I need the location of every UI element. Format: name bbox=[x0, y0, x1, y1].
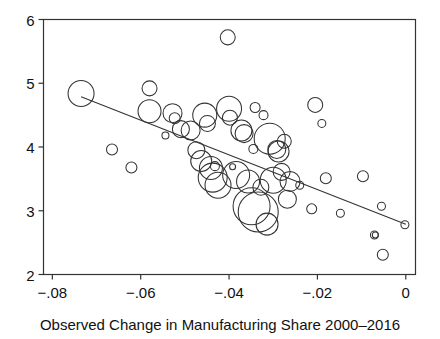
bubble-marker bbox=[308, 97, 323, 112]
bubble-marker bbox=[220, 30, 235, 45]
x-axis-title: Observed Change in Manufacturing Share 2… bbox=[0, 316, 440, 333]
bubble-marker bbox=[268, 141, 286, 159]
bubble-marker bbox=[222, 110, 237, 125]
bubble-scatter-figure: 23456 −.08−.06−.04−.020 Observed Change … bbox=[0, 0, 440, 339]
bubble-marker bbox=[250, 102, 260, 112]
axes bbox=[39, 20, 416, 280]
bubble-marker bbox=[235, 125, 253, 143]
bubble-marker bbox=[193, 103, 217, 127]
bubble-marker bbox=[377, 202, 385, 210]
bubble-marker bbox=[106, 144, 117, 155]
bubble-marker bbox=[253, 179, 269, 195]
y-tick-label: 6 bbox=[0, 11, 35, 28]
bubble-marker bbox=[259, 111, 268, 120]
bubble-marker bbox=[254, 123, 285, 154]
bubble-marker bbox=[336, 209, 344, 217]
bubble-marker bbox=[68, 80, 94, 106]
y-tick-label: 3 bbox=[0, 202, 35, 219]
bubble-marker bbox=[318, 119, 326, 127]
x-tick-label: −.08 bbox=[38, 284, 68, 301]
bubble-marker bbox=[249, 144, 258, 153]
y-tick-label: 5 bbox=[0, 75, 35, 92]
bubble-marker bbox=[357, 171, 368, 182]
bubble-marker bbox=[126, 162, 137, 173]
bubble-marker bbox=[142, 81, 157, 96]
bubble-marker bbox=[372, 232, 378, 238]
fit-line bbox=[81, 97, 406, 225]
bubble-marker bbox=[181, 121, 200, 140]
y-tick-label: 2 bbox=[0, 266, 35, 283]
bubble-marker bbox=[401, 221, 409, 229]
x-tick-label: −.04 bbox=[214, 284, 244, 301]
bubble-marker bbox=[377, 249, 388, 260]
x-tick-label: −.02 bbox=[303, 284, 333, 301]
plot-frame bbox=[44, 20, 416, 275]
bubble-marker bbox=[278, 190, 296, 208]
y-tick-label: 4 bbox=[0, 139, 35, 156]
bubble-marker bbox=[230, 164, 236, 170]
regression-line bbox=[81, 97, 406, 225]
x-tick-label: −.06 bbox=[126, 284, 156, 301]
data-points bbox=[68, 30, 409, 260]
bubble-marker bbox=[162, 132, 169, 139]
bubble-marker bbox=[138, 100, 161, 123]
bubble-marker bbox=[231, 120, 252, 141]
bubble-marker bbox=[320, 173, 331, 184]
bubble-marker bbox=[307, 204, 317, 214]
bubble-marker bbox=[238, 192, 278, 232]
x-tick-label: 0 bbox=[402, 284, 410, 301]
